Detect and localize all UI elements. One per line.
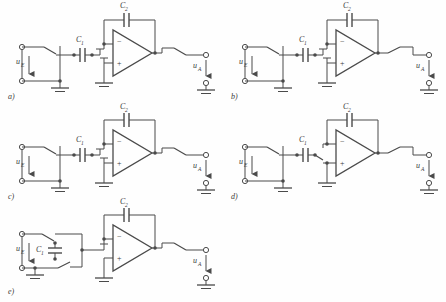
panel-d-opamp-noninverting: + [340,159,345,168]
panel-a-output-terminal-top[interactable] [203,52,208,57]
panel-a-output-sub: A [197,66,202,72]
panel-c-output-terminal-top[interactable] [203,152,208,157]
panel-b-output-terminal-bottom[interactable] [426,80,431,85]
panel-e-opamp-noninverting: + [117,254,122,263]
panel-e-output-terminal-bottom[interactable] [203,275,208,280]
panel-c-cap1-sub: 1 [81,140,84,146]
panel-c-caption: c) [8,192,15,201]
panel-d-output-terminal-bottom[interactable] [426,180,431,185]
panel-d-input-label: u [239,157,243,166]
panel-b-opamp-noninverting: + [340,59,345,68]
panel-e-cap2-sub: 2 [125,202,128,208]
panel-d-output-label: u [416,161,420,170]
panel-c-cap2-sub: 2 [125,107,128,113]
panel-d-opamp-inverting: − [340,137,345,146]
panel-b-opamp-inverting: − [340,37,345,46]
panel-d-input-sub: E [243,162,248,168]
panel-d-cap1-sub: 1 [304,140,307,146]
panel-c-input-label: u [16,157,20,166]
panel-b-caption: b) [231,92,238,101]
panel-a-cap2-sub: 2 [125,6,128,12]
panel-c-opamp-noninverting: + [117,159,122,168]
panel-a-input-sub: E [20,62,25,68]
panel-a-cap1-sub: 1 [81,40,84,46]
panel-c-input-sub: E [20,162,25,168]
panel-e-input-sub: E [20,249,25,255]
panel-c-opamp-inverting: − [117,137,122,146]
panel-d-caption: d) [231,192,238,201]
panel-a-output-terminal-bottom[interactable] [203,80,208,85]
panel-d-output-terminal-top[interactable] [426,152,431,157]
panel-a-opamp-noninverting: + [117,59,122,68]
circuit-diagram-svg: u E C 1 − + [0,0,446,302]
panel-d-cap2-sub: 2 [348,107,351,113]
panel-a-input-label: u [16,57,20,66]
panel-b-cap2-sub: 2 [348,6,351,12]
panel-b-input-label: u [239,57,243,66]
panel-b-output-terminal-top[interactable] [426,52,431,57]
panel-c-output-sub: A [197,166,202,172]
panel-b-output-sub: A [420,66,425,72]
panel-c-output-terminal-bottom[interactable] [203,180,208,185]
panel-b-cap1-sub: 1 [304,40,307,46]
panel-a-caption: a) [8,92,15,101]
panel-a-output-label: u [193,61,197,70]
panel-e-cap1-sub: 1 [41,250,44,256]
panel-c-output-label: u [193,161,197,170]
panel-e-caption: e) [8,287,15,296]
panel-e-opamp-inverting: − [117,232,122,241]
panel-e-output-label: u [193,256,197,265]
panel-b-input-sub: E [243,62,248,68]
panel-b-output-label: u [416,61,420,70]
panel-a-opamp-inverting: − [117,37,122,46]
panel-e-output-sub: A [197,261,202,267]
panel-e-input-label: u [16,244,20,253]
panel-d-output-sub: A [420,166,425,172]
figure-canvas: u E C 1 − + [0,0,446,302]
panel-e-output-terminal-top[interactable] [203,247,208,252]
